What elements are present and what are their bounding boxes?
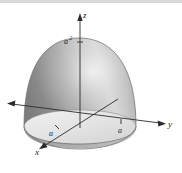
y-axis-arrowhead: [158, 121, 166, 127]
apex-label-exponent: 2: [70, 35, 73, 41]
z-axis-arrowhead: [77, 13, 82, 21]
y-axis-negative-arrowhead: [7, 100, 15, 106]
x-intercept-label: a: [49, 129, 53, 138]
z-axis-label: z: [82, 10, 87, 20]
y-axis-label: y: [167, 119, 172, 129]
paraboloid-diagram: z y x a 2 a a: [0, 0, 182, 173]
x-axis-label: x: [34, 147, 39, 157]
paraboloid-figure: z y x a 2 a a: [0, 0, 182, 173]
apex-label-base: a: [64, 37, 68, 46]
y-intercept-label: a: [118, 126, 122, 135]
